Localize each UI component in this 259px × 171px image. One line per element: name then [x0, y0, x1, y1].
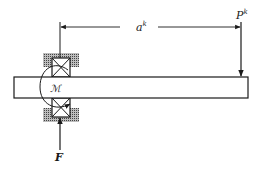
distance-label: ak — [136, 20, 147, 34]
moment-label: ℳ — [50, 83, 62, 94]
upper-bearing — [52, 58, 70, 77]
reaction-label: F — [54, 151, 64, 164]
load-label: Pk — [235, 8, 248, 22]
beam-diagram: ak Pk ℳ F — [0, 0, 259, 171]
